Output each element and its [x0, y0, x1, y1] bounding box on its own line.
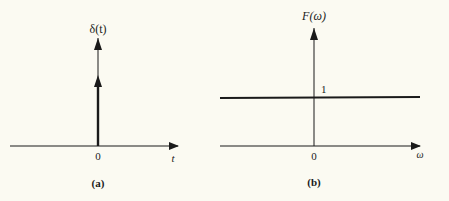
- b-caption: (b): [307, 176, 321, 189]
- a-x-label: t: [171, 152, 175, 164]
- b-level-label: 1: [321, 83, 327, 95]
- impulse-arrow-icon: [94, 75, 102, 87]
- panel-a-delta-function: δ(t) 0 t (a): [10, 22, 178, 190]
- a-y-label: δ(t): [90, 22, 107, 36]
- a-y-axis-arrow-icon: [94, 38, 102, 50]
- a-origin-label: 0: [95, 150, 101, 162]
- b-y-axis-arrow-icon: [310, 28, 318, 40]
- figure: δ(t) 0 t (a) F(ω) 1 0 ω (b): [0, 0, 449, 201]
- b-y-label: F(ω): [301, 9, 326, 23]
- constant-spectrum-line: [220, 97, 420, 98]
- panel-b-fourier-transform: F(ω) 1 0 ω (b): [220, 9, 424, 189]
- a-caption: (a): [92, 177, 105, 190]
- b-origin-label: 0: [311, 150, 317, 162]
- b-x-label: ω: [416, 149, 423, 160]
